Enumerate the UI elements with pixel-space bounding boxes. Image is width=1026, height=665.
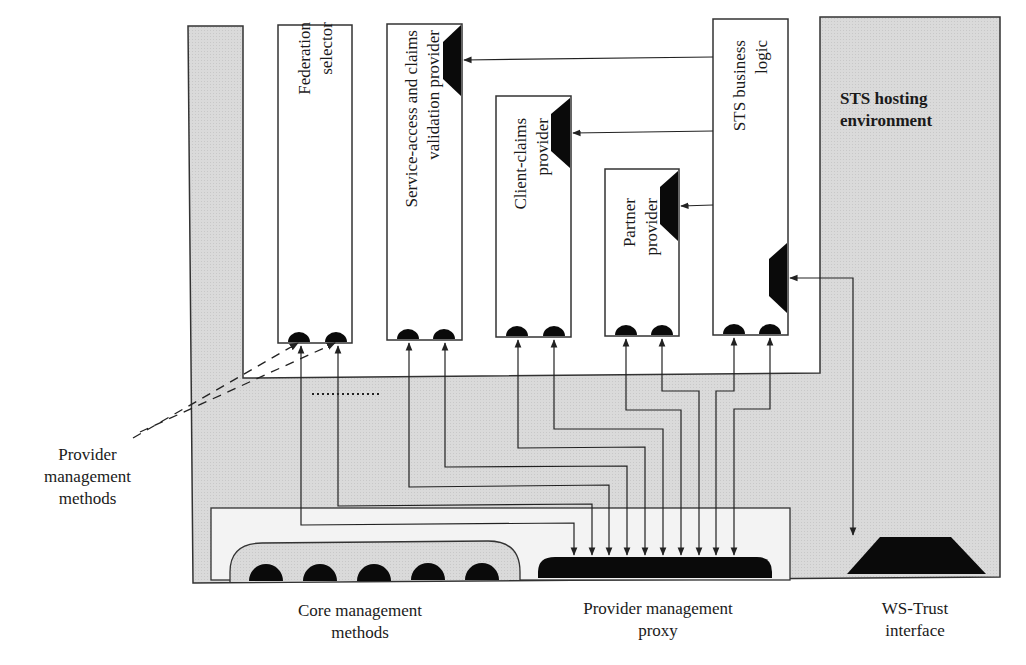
service-access-label: Service-access and claims validation pro… — [401, 30, 445, 320]
proxy-label: Provider management proxy — [553, 598, 763, 642]
provider-management-proxy — [538, 557, 772, 578]
environment-label: STS hosting environment — [840, 88, 1000, 132]
sts-business-logic-label: STS business logic — [729, 40, 773, 240]
core-methods-label: Core management methods — [270, 600, 450, 644]
federation-selector-label: Federation selector — [294, 22, 338, 162]
partner-provider-label: Partner provider — [619, 198, 663, 318]
provider-methods-label: Provider management methods — [20, 444, 155, 510]
ws-trust-label: WS-Trust interface — [860, 598, 970, 642]
client-claims-label: Client-claims provider — [510, 118, 554, 318]
